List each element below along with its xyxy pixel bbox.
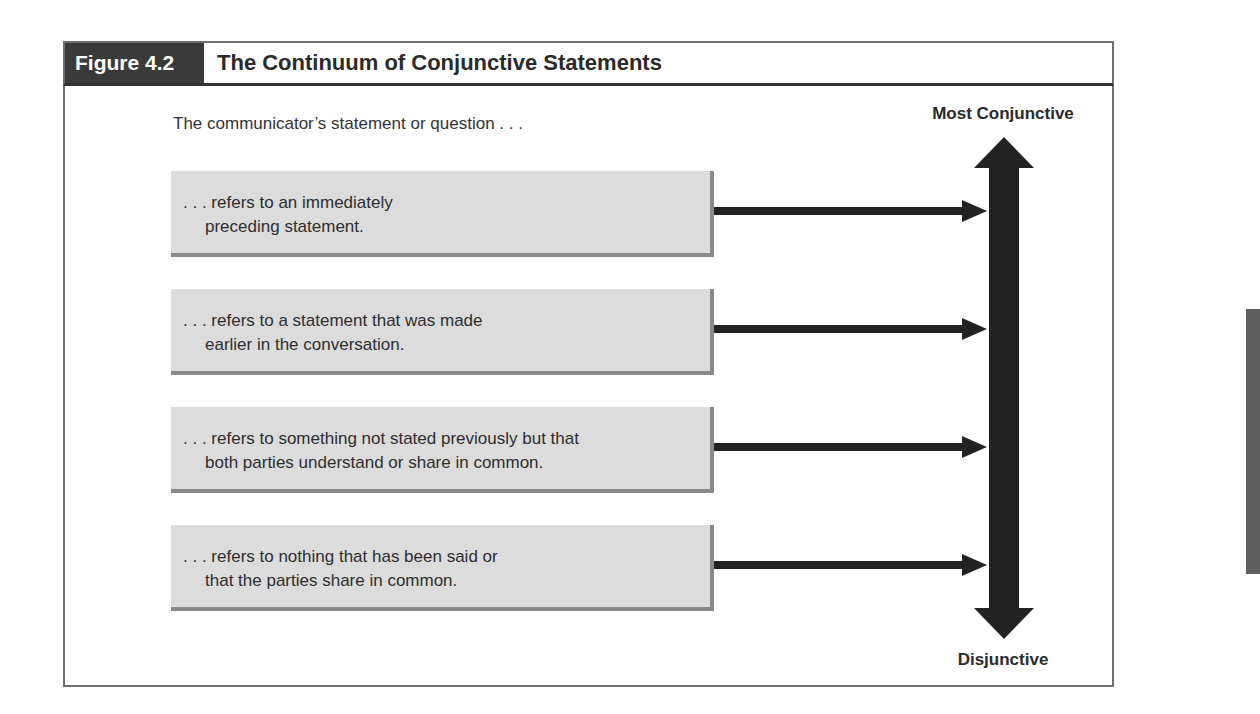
horizontal-arrow-icon xyxy=(714,436,987,458)
horizontal-arrow-icon xyxy=(714,554,987,576)
horizontal-arrow-icon xyxy=(714,318,987,340)
page-edge-tab xyxy=(1246,309,1260,574)
arrows-layer xyxy=(0,0,1260,714)
horizontal-arrow-icon xyxy=(714,200,987,222)
